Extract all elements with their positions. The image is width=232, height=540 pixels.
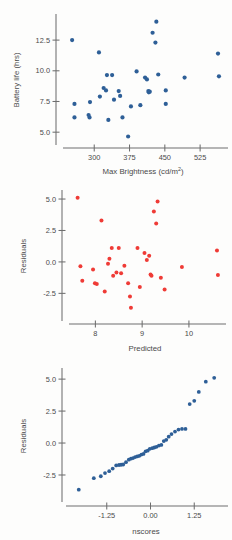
data-point	[106, 262, 110, 266]
chart-svg-top: 5.07.510.012.5 300375450525 Battery life…	[0, 0, 232, 180]
x-axis-title-bottom: nscores	[132, 527, 159, 536]
data-point	[154, 222, 158, 226]
scatter-panel-residuals-vs-predicted: -2.50.02.55.0 8910 Residuals Predicted	[0, 176, 232, 358]
y-tick-label: 2.5	[46, 226, 56, 235]
data-point	[88, 100, 92, 104]
y-tick-label: -2.5	[43, 471, 56, 480]
data-point	[105, 73, 109, 77]
x-tick-label: 300	[88, 153, 100, 162]
y-tick-label: 0.0	[46, 258, 56, 267]
data-point	[154, 20, 158, 24]
x-tick-label: -1.25	[98, 511, 115, 520]
data-point	[76, 196, 80, 200]
x-axis-title-mid: Predicted	[129, 344, 162, 353]
y-tick-label: 12.5	[36, 36, 50, 45]
data-point	[117, 246, 121, 250]
data-point	[104, 88, 108, 92]
data-point	[117, 89, 121, 93]
data-point	[110, 73, 114, 77]
y-axis-title-mid: Residuals	[19, 239, 28, 273]
data-point	[91, 267, 95, 271]
data-points-bottom	[77, 376, 216, 492]
data-point	[134, 69, 138, 73]
data-point	[212, 376, 216, 380]
x-tick-label: 0.00	[143, 511, 157, 520]
y-tick-labels-mid: -2.50.02.55.0	[43, 195, 56, 298]
data-point	[217, 74, 221, 78]
y-axis-title-bottom: Residuals	[19, 419, 28, 453]
y-tick-label: 5.0	[40, 128, 50, 137]
data-point	[159, 443, 163, 447]
scatter-panel-battery-vs-brightness: 5.07.510.012.5 300375450525 Battery life…	[0, 0, 232, 180]
x-tick-labels-top: 300375450525	[88, 153, 206, 162]
y-tick-label: 7.5	[40, 97, 50, 106]
y-tick-label: 10.0	[36, 66, 50, 75]
data-point	[80, 279, 84, 283]
scatter-panel-residuals-vs-nscores: -2.50.02.55.0 -1.250.001.25 Residuals ns…	[0, 356, 232, 540]
data-point	[128, 295, 132, 299]
data-point	[107, 469, 111, 473]
data-point	[164, 88, 168, 92]
data-point	[92, 476, 96, 480]
data-point	[152, 210, 156, 214]
data-point	[180, 427, 184, 431]
x-axis-title-top: Max Brightness (cd/m2)	[102, 166, 183, 176]
data-point	[99, 218, 103, 222]
data-point	[188, 402, 192, 406]
data-point	[147, 254, 151, 258]
chart-svg-bottom: -2.50.02.55.0 -1.250.001.25 Residuals ns…	[0, 356, 232, 540]
data-point	[138, 285, 142, 289]
data-point	[164, 438, 168, 442]
chart-svg-mid: -2.50.02.55.0 8910 Residuals Predicted	[0, 176, 232, 358]
data-point	[103, 471, 107, 475]
data-point	[97, 50, 101, 54]
data-point	[99, 474, 103, 478]
data-point	[167, 435, 171, 439]
y-tick-labels-top: 5.07.510.012.5	[36, 36, 50, 137]
data-point	[87, 115, 91, 119]
data-point	[150, 31, 154, 35]
data-point	[177, 428, 181, 432]
data-point	[72, 115, 76, 119]
data-point	[124, 460, 128, 464]
data-point	[111, 467, 115, 471]
data-point	[145, 77, 149, 81]
y-tick-label: 0.0	[46, 439, 56, 448]
data-point	[215, 249, 219, 253]
data-point	[204, 380, 208, 384]
data-point	[173, 430, 177, 434]
data-point	[216, 52, 220, 56]
data-point	[216, 273, 220, 277]
data-point	[110, 246, 114, 250]
data-point	[107, 257, 111, 261]
data-point	[148, 90, 152, 94]
data-point	[112, 98, 116, 102]
x-tick-label: 9	[140, 329, 144, 338]
data-point	[164, 102, 168, 106]
data-point	[98, 94, 102, 98]
data-point	[184, 427, 188, 431]
data-point	[129, 104, 133, 108]
data-point	[103, 289, 107, 293]
y-tick-labels-bottom: -2.50.02.55.0	[43, 375, 56, 480]
x-tick-label: 1.25	[187, 511, 201, 520]
data-point	[180, 265, 184, 269]
x-axis-title-top-tail: )	[181, 167, 184, 176]
data-point	[150, 274, 154, 278]
x-axis-title-top-main: Max Brightness (cd/m	[102, 167, 177, 176]
data-point	[72, 102, 76, 106]
y-axis-title-top: Battery life (hrs)	[12, 52, 21, 107]
data-point	[126, 134, 130, 138]
data-point	[192, 399, 196, 403]
data-point	[197, 390, 201, 394]
data-point	[142, 251, 146, 255]
data-point	[78, 264, 82, 268]
data-point	[129, 306, 133, 310]
x-tick-labels-bottom: -1.250.001.25	[98, 511, 201, 520]
data-point	[114, 271, 118, 275]
data-point	[182, 75, 186, 79]
data-point	[95, 282, 99, 286]
data-point	[122, 264, 126, 268]
data-point	[156, 200, 160, 204]
y-tick-label: 5.0	[46, 195, 56, 204]
